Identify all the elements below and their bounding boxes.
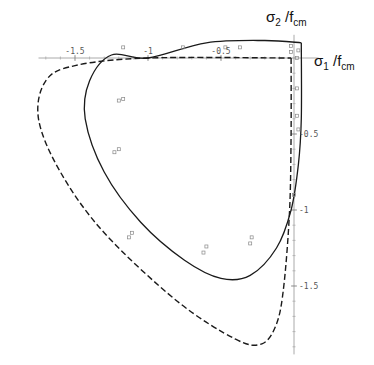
data-point-marker bbox=[290, 44, 293, 47]
data-point-marker bbox=[295, 87, 298, 90]
data-point-marker bbox=[205, 245, 208, 248]
y-axis-title: σ2 /fcm bbox=[266, 8, 307, 28]
y-tick-label: -1 bbox=[299, 206, 309, 215]
x-tick-label: -0.5 bbox=[211, 47, 230, 56]
biaxial-failure-chart: -1.5-1-0.5-0.5-1-1.5 σ2 /fcm σ1 /fcm bbox=[0, 0, 374, 365]
x-axis-title: σ1 /fcm bbox=[314, 52, 355, 72]
data-point-marker bbox=[117, 99, 120, 102]
data-point-marker bbox=[250, 236, 253, 239]
series-group bbox=[38, 40, 302, 345]
x-tick-label: -1.5 bbox=[65, 47, 84, 56]
data-point-marker bbox=[128, 236, 131, 239]
data-point-marker bbox=[122, 98, 125, 101]
data-point-marker bbox=[202, 251, 205, 254]
data-point-marker bbox=[117, 148, 120, 151]
data-point-marker bbox=[113, 151, 116, 154]
y-tick-label: -1.5 bbox=[299, 282, 318, 291]
y-tick-label: -0.5 bbox=[299, 130, 318, 139]
data-point-marker bbox=[295, 114, 298, 117]
data-point-marker bbox=[238, 46, 241, 49]
dashed-envelope-curve bbox=[38, 57, 291, 345]
axes bbox=[39, 35, 319, 355]
data-point-marker bbox=[249, 242, 252, 245]
data-point-marker bbox=[130, 231, 133, 234]
data-point-marker bbox=[297, 49, 300, 52]
data-point-marker bbox=[122, 46, 125, 49]
data-point-marker bbox=[290, 50, 293, 53]
x-tick-label: -1 bbox=[143, 47, 153, 56]
solid-envelope-curve bbox=[84, 40, 301, 279]
